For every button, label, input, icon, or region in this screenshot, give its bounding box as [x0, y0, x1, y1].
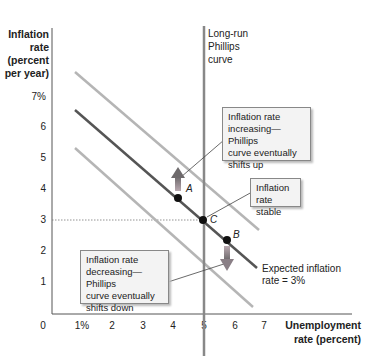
callout-line: Inflation — [256, 182, 295, 194]
point-a-label: A — [186, 183, 193, 194]
callout-line: rate stable — [256, 194, 295, 218]
callout-inflation-increasing: Inflation rate increasing—Phillips curve… — [222, 107, 311, 161]
expected-inflation-label: Expected inflation rate = 3% — [262, 263, 341, 287]
point-c-label: C — [210, 214, 217, 225]
arrow-up-icon — [171, 167, 185, 191]
callout-inflation-decreasing: Inflation rate decreasing—Phillips curve… — [80, 250, 169, 304]
expected-inflation-label-line: Expected inflation — [262, 263, 341, 275]
callout-line: curve eventually — [228, 147, 305, 159]
point-c — [199, 216, 207, 224]
callout-line: Inflation rate — [228, 111, 305, 123]
callout-line: curve eventually — [86, 290, 163, 302]
point-b — [223, 236, 231, 244]
phillips-curve-plot — [0, 0, 369, 357]
point-a — [174, 194, 182, 202]
callout-line: decreasing—Phillips — [86, 266, 163, 290]
callout-line: shifts up — [228, 159, 305, 171]
arrow-down-icon — [220, 246, 234, 271]
callout-line: increasing—Phillips — [228, 123, 305, 147]
callout-line: shifts down — [86, 302, 163, 314]
point-b-label: B — [233, 229, 240, 240]
callout-line: Inflation rate — [86, 254, 163, 266]
callout-inflation-stable: Inflation rate stable — [250, 178, 301, 207]
expected-inflation-label-line: rate = 3% — [262, 275, 341, 287]
callout-up-pointer — [181, 140, 224, 177]
